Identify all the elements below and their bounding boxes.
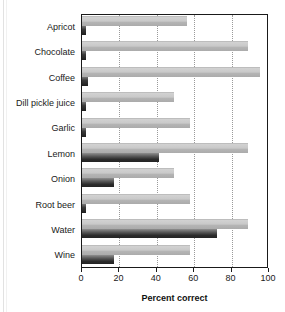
bar-group (82, 193, 267, 218)
y-axis-category-labels: ApricotChocolateCoffeeDill pickle juiceG… (0, 14, 78, 268)
bar-dark-root-beer (82, 204, 86, 213)
bar-light-onion (82, 168, 174, 178)
y-axis-label-root-beer: Root beer (0, 200, 75, 210)
bar-light-dill-pickle-juice (82, 92, 174, 102)
x-tick-label-80: 80 (216, 273, 246, 284)
x-tick-label-40: 40 (141, 273, 171, 284)
bar-dark-chocolate (82, 51, 86, 60)
bar-light-coffee (82, 67, 260, 77)
bar-dark-coffee (82, 77, 88, 86)
bar-dark-lemon (82, 153, 159, 162)
x-tick-label-20: 20 (103, 273, 133, 284)
bar-group (82, 15, 267, 40)
x-tick-label-0: 0 (66, 273, 96, 284)
bar-light-garlic (82, 118, 190, 128)
bar-dark-dill-pickle-juice (82, 102, 86, 111)
bar-light-lemon (82, 143, 248, 153)
y-axis-label-wine: Wine (0, 250, 75, 260)
bar-chart-figure: ApricotChocolateCoffeeDill pickle juiceG… (0, 0, 285, 312)
bar-light-chocolate (82, 41, 248, 51)
y-axis-label-chocolate: Chocolate (0, 47, 75, 57)
bar-dark-wine (82, 255, 114, 264)
y-axis-label-water: Water (0, 225, 75, 235)
x-tick-80 (231, 268, 232, 272)
bar-group (82, 66, 267, 91)
bar-dark-garlic (82, 128, 86, 137)
y-axis-label-dill-pickle-juice: Dill pickle juice (0, 98, 75, 108)
x-tick-40 (156, 268, 157, 272)
x-axis-tick-labels: 020406080100 (0, 273, 285, 285)
x-tick-20 (118, 268, 119, 272)
x-tick-label-100: 100 (253, 273, 283, 284)
x-axis-title: Percent correct (81, 293, 268, 304)
y-axis-label-coffee: Coffee (0, 73, 75, 83)
x-tick-100 (268, 268, 269, 272)
bar-light-root-beer (82, 194, 190, 204)
bar-group (82, 244, 267, 269)
bar-group (82, 142, 267, 167)
bar-light-wine (82, 245, 190, 255)
bar-light-apricot (82, 16, 187, 26)
bar-group (82, 117, 267, 142)
y-axis-label-apricot: Apricot (0, 22, 75, 32)
bar-group (82, 40, 267, 65)
bar-group (82, 218, 267, 243)
bar-light-water (82, 219, 248, 229)
bar-group (82, 91, 267, 116)
bar-dark-onion (82, 178, 114, 187)
bar-group (82, 167, 267, 192)
plot-area (81, 14, 268, 268)
y-axis-label-onion: Onion (0, 174, 75, 184)
y-axis-label-lemon: Lemon (0, 149, 75, 159)
y-axis-label-garlic: Garlic (0, 123, 75, 133)
x-tick-label-60: 60 (178, 273, 208, 284)
bar-dark-apricot (82, 26, 86, 35)
bar-rows (82, 15, 267, 267)
x-tick-60 (193, 268, 194, 272)
bar-dark-water (82, 229, 217, 238)
x-tick-0 (81, 268, 82, 272)
